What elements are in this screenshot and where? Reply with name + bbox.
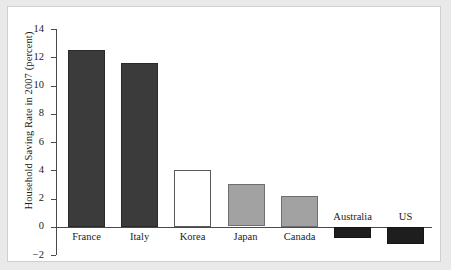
y-tick-mark	[51, 114, 56, 115]
x-label-us: US	[372, 212, 439, 223]
y-tick-label: 6	[22, 137, 44, 148]
bar-australia	[334, 227, 371, 238]
y-tick-label: 4	[22, 165, 44, 176]
figure-container: Household Saving Rate in 2007 (percent) …	[0, 0, 451, 270]
x-label-canada: Canada	[266, 232, 333, 243]
bar-chart: Household Saving Rate in 2007 (percent) …	[8, 7, 442, 263]
plot-card: Household Saving Rate in 2007 (percent) …	[7, 6, 441, 262]
y-tick-label: 10	[22, 80, 44, 91]
bar-japan	[228, 184, 265, 226]
y-tick-label: 14	[22, 24, 44, 35]
y-axis-spine	[56, 29, 57, 255]
y-tick-mark	[51, 142, 56, 143]
y-tick-label: 12	[22, 52, 44, 63]
y-tick-mark	[51, 227, 56, 228]
y-tick-label: 2	[22, 193, 44, 204]
bar-canada	[281, 196, 318, 227]
zero-baseline	[56, 227, 432, 228]
y-tick-mark	[51, 57, 56, 58]
y-tick-label: 0	[22, 221, 44, 232]
bar-italy	[121, 63, 158, 227]
y-tick-mark	[51, 86, 56, 87]
bar-korea	[174, 170, 211, 227]
bar-france	[68, 50, 105, 227]
y-tick-label: 8	[22, 108, 44, 119]
y-tick-mark	[51, 29, 56, 30]
bar-us	[387, 227, 424, 244]
y-tick-label: −2	[22, 250, 44, 261]
y-tick-mark	[51, 170, 56, 171]
y-tick-mark	[51, 255, 56, 256]
y-tick-mark	[51, 199, 56, 200]
